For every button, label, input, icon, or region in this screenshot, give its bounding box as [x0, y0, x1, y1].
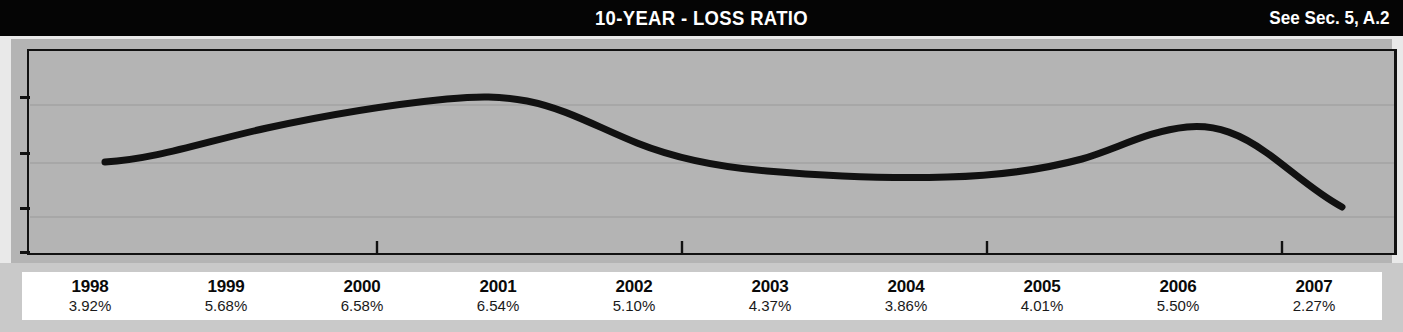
axis-label-cell-1999: 1999 5.68% [158, 272, 294, 320]
axis-label-row: 1998 3.92% 1999 5.68% 2000 6.58% 2001 6.… [22, 272, 1382, 320]
axis-label-value: 3.86% [838, 297, 974, 315]
axis-label-year: 2005 [974, 277, 1110, 297]
axis-label-year: 1999 [158, 277, 294, 297]
axis-label-year: 2007 [1246, 277, 1382, 297]
axis-label-year: 2001 [430, 277, 566, 297]
axis-label-year: 2000 [294, 277, 430, 297]
loss-ratio-series-line [105, 97, 1342, 207]
axis-label-cell-2007: 2007 2.27% [1246, 272, 1382, 320]
axis-label-cell-2006: 2006 5.50% [1110, 272, 1246, 320]
axis-label-strip: 1998 3.92% 1999 5.68% 2000 6.58% 2001 6.… [0, 263, 1403, 332]
axis-label-value: 5.68% [158, 297, 294, 315]
axis-label-value: 4.37% [702, 297, 838, 315]
axis-label-cell-2001: 2001 6.54% [430, 272, 566, 320]
loss-ratio-chart-panel: 10-YEAR - LOSS RATIO See Sec. 5, A.2 [0, 0, 1403, 332]
axis-label-year: 2004 [838, 277, 974, 297]
axis-label-year: 2003 [702, 277, 838, 297]
plot-frame [27, 49, 1397, 255]
axis-label-cell-2004: 2004 3.86% [838, 272, 974, 320]
axis-label-year: 1998 [22, 277, 158, 297]
axis-label-cell-2000: 2000 6.58% [294, 272, 430, 320]
plot-outer-area [0, 36, 1403, 263]
x-axis-ticks [377, 241, 1282, 253]
axis-label-year: 2002 [566, 277, 702, 297]
axis-label-value: 5.10% [566, 297, 702, 315]
axis-label-value: 4.01% [974, 297, 1110, 315]
axis-label-cell-2005: 2005 4.01% [974, 272, 1110, 320]
axis-label-value: 2.27% [1246, 297, 1382, 315]
axis-label-cell-2003: 2003 4.37% [702, 272, 838, 320]
axis-label-cell-1998: 1998 3.92% [22, 272, 158, 320]
axis-label-value: 6.54% [430, 297, 566, 315]
axis-label-cell-2002: 2002 5.10% [566, 272, 702, 320]
plot-background-band [11, 39, 1392, 263]
axis-label-value: 3.92% [22, 297, 158, 315]
page-title: 10-YEAR - LOSS RATIO [84, 0, 1319, 36]
chart-header-bar: 10-YEAR - LOSS RATIO See Sec. 5, A.2 [0, 0, 1403, 36]
section-reference-note: See Sec. 5, A.2 [1269, 0, 1389, 36]
loss-ratio-line-chart [27, 49, 1397, 255]
axis-label-value: 5.50% [1110, 297, 1246, 315]
axis-label-value: 6.58% [294, 297, 430, 315]
axis-label-year: 2006 [1110, 277, 1246, 297]
